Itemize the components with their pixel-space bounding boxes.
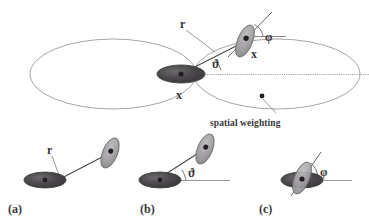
label-spatial-weighting: spatial weighting bbox=[210, 118, 281, 128]
figure-background bbox=[0, 0, 369, 221]
panel-b-source-cell-nucleus bbox=[158, 178, 163, 183]
scientific-figure: r ϑ φ x x spatial weighting r (a) bbox=[0, 0, 369, 221]
label-phi-main: φ bbox=[265, 30, 273, 44]
panel-c-caption: (c) bbox=[259, 202, 272, 216]
center-cell bbox=[157, 65, 205, 83]
panel-c-label-phi: φ bbox=[320, 165, 328, 179]
label-r-main: r bbox=[180, 17, 186, 31]
label-x-center: x bbox=[176, 88, 182, 102]
spatial-weighting-dot bbox=[260, 94, 265, 99]
panel-c-nucleus bbox=[299, 176, 304, 181]
panel-a-label-r: r bbox=[47, 143, 53, 157]
panel-a-caption: (a) bbox=[8, 202, 22, 216]
panel-b-source-cell bbox=[139, 172, 181, 188]
figure-container: r ϑ φ x x spatial weighting r (a) bbox=[0, 0, 369, 221]
center-cell-nucleus bbox=[178, 71, 183, 76]
panel-b-caption: (b) bbox=[140, 202, 155, 216]
label-theta-main: ϑ bbox=[212, 57, 219, 71]
panel-a-source-cell bbox=[24, 172, 66, 188]
panel-a-source-cell-nucleus bbox=[43, 178, 48, 183]
label-x-neighbour: x bbox=[251, 47, 257, 61]
panel-b-label-theta: ϑ bbox=[188, 166, 195, 180]
